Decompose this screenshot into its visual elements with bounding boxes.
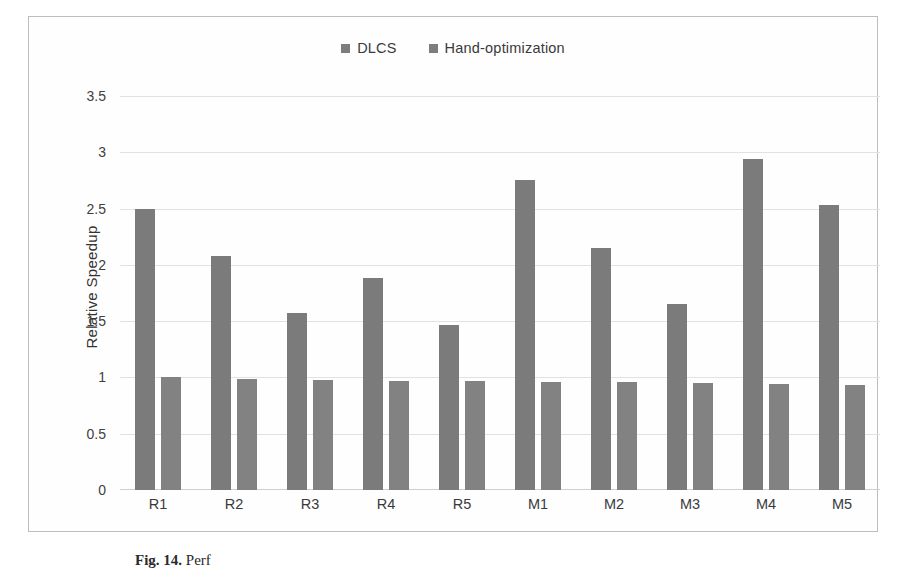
legend-item-hand-optimization: Hand-optimization	[429, 40, 565, 56]
x-tick-label: R1	[120, 496, 196, 512]
bar-group	[120, 96, 196, 490]
bar	[591, 248, 611, 490]
bar	[363, 278, 383, 490]
y-tick-label: 2.5	[87, 201, 106, 217]
y-tick-label: 2	[98, 257, 106, 273]
legend-swatch-hand-optimization	[429, 44, 438, 53]
bar	[769, 384, 789, 490]
y-tick-label: 1.5	[87, 313, 106, 329]
bar	[465, 381, 485, 490]
bar	[161, 377, 181, 490]
x-tick-label: R2	[196, 496, 272, 512]
legend-label-dlcs: DLCS	[357, 40, 396, 56]
bar	[819, 205, 839, 490]
bar-group	[424, 96, 500, 490]
bar-group	[576, 96, 652, 490]
x-tick-label: M4	[728, 496, 804, 512]
bar-groups	[120, 96, 880, 490]
bar-group	[500, 96, 576, 490]
bar	[135, 209, 155, 490]
x-tick-label: M3	[652, 496, 728, 512]
bar-group	[804, 96, 880, 490]
bar	[743, 159, 763, 490]
bar	[617, 382, 637, 490]
y-tick-label: 3.5	[87, 88, 106, 104]
x-tick-label: M1	[500, 496, 576, 512]
bar	[389, 381, 409, 490]
bar-group	[652, 96, 728, 490]
bar-group	[196, 96, 272, 490]
figure-caption-label: Fig. 14.	[135, 552, 182, 568]
y-tick-label: 0	[98, 482, 106, 498]
figure-caption-text: Perf	[186, 552, 211, 568]
bar	[693, 383, 713, 490]
legend-label-hand-optimization: Hand-optimization	[445, 40, 565, 56]
y-tick-label: 3	[98, 144, 106, 160]
legend-item-dlcs: DLCS	[341, 40, 396, 56]
y-tick-label: 0.5	[87, 426, 106, 442]
bar	[237, 379, 257, 490]
x-axis-tick-labels: R1R2R3R4R5M1M2M3M4M5	[120, 496, 880, 512]
bar	[515, 180, 535, 490]
bar	[287, 313, 307, 490]
chart-legend: DLCS Hand-optimization	[0, 40, 906, 56]
bar-group	[728, 96, 804, 490]
bar	[439, 325, 459, 490]
x-tick-label: R5	[424, 496, 500, 512]
x-tick-label: R3	[272, 496, 348, 512]
x-tick-label: R4	[348, 496, 424, 512]
legend-swatch-dlcs	[341, 44, 350, 53]
bar	[667, 304, 687, 490]
bar	[313, 380, 333, 490]
bar-group	[348, 96, 424, 490]
bar-group	[272, 96, 348, 490]
x-tick-label: M2	[576, 496, 652, 512]
y-axis-tick-labels: 00.511.522.533.5	[0, 96, 114, 490]
x-tick-label: M5	[804, 496, 880, 512]
y-tick-label: 1	[98, 369, 106, 385]
bar	[211, 256, 231, 490]
bar	[845, 385, 865, 490]
figure-caption: Fig. 14. Perf	[135, 552, 211, 569]
bar	[541, 382, 561, 490]
